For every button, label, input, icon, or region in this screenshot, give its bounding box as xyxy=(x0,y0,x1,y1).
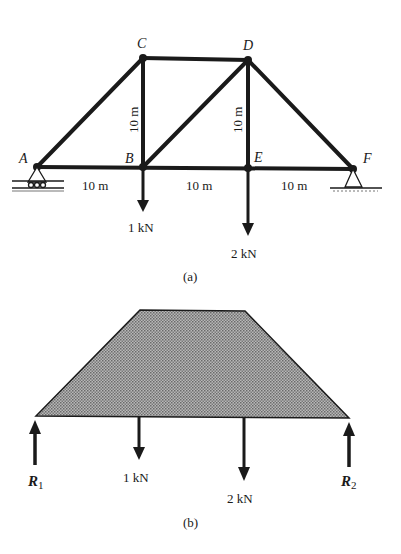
truss-figure: C D A B E F 10 m 10 m 10 m 10 m 10 m 1 k… xyxy=(0,0,401,554)
node-label-F: F xyxy=(362,151,372,166)
node-label-B: B xyxy=(125,151,134,166)
member-CD xyxy=(143,58,248,60)
caption-a: (a) xyxy=(183,269,197,284)
dim-EF: 10 m xyxy=(281,178,307,193)
load-arrow-1kN xyxy=(133,417,145,460)
reaction-arrow-R1 xyxy=(29,420,41,465)
member-DF xyxy=(248,60,353,169)
reaction-arrow-R2 xyxy=(343,422,355,467)
dim-ED: 10 m xyxy=(230,107,245,133)
dim-BC: 10 m xyxy=(126,107,141,133)
truss-body-shape xyxy=(36,310,349,418)
load-arrow-2kN xyxy=(238,418,250,481)
node-label-C: C xyxy=(137,36,147,51)
node-label-E: E xyxy=(253,150,263,165)
load-arrow-B xyxy=(137,167,149,212)
pin-support-icon xyxy=(330,169,382,191)
reaction-label-R2: R2 xyxy=(340,473,357,491)
load-label-E: 2 kN xyxy=(231,246,257,261)
member-bottom-chord xyxy=(37,167,353,169)
load-label-1kN: 1 kN xyxy=(123,470,149,485)
roller-support-icon xyxy=(12,167,64,191)
joint-D xyxy=(244,56,252,64)
truss-members xyxy=(37,58,353,169)
load-label-2kN: 2 kN xyxy=(227,491,253,506)
caption-b: (b) xyxy=(183,515,198,530)
reaction-label-R1: R1 xyxy=(27,473,44,491)
free-body-diagram-b: R1 R2 1 kN 2 kN (b) xyxy=(27,310,357,530)
dim-BE: 10 m xyxy=(186,178,212,193)
load-arrow-E xyxy=(242,168,254,236)
load-label-B: 1 kN xyxy=(128,220,154,235)
node-label-A: A xyxy=(18,151,28,166)
joint-C xyxy=(139,54,147,62)
truss-diagram-a: C D A B E F 10 m 10 m 10 m 10 m 10 m 1 k… xyxy=(12,36,382,284)
dim-AB: 10 m xyxy=(82,178,108,193)
node-label-D: D xyxy=(242,38,253,53)
